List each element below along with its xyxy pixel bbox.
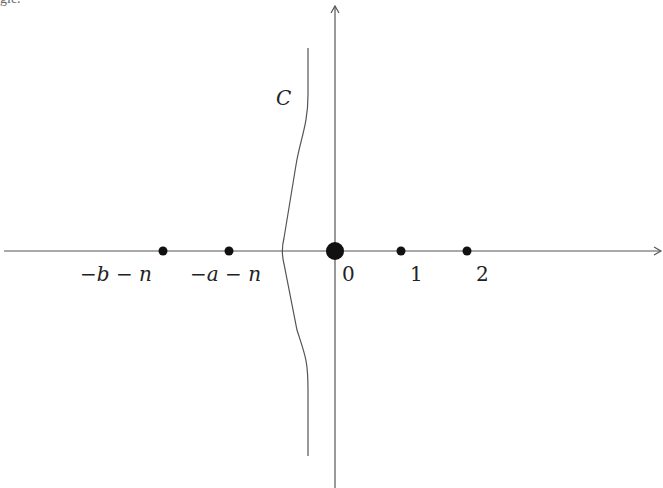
label-b-n: −b − n: [80, 262, 152, 286]
pole-1: [397, 247, 406, 256]
label-1: 1: [410, 262, 423, 286]
contour-label: C: [276, 86, 291, 110]
label-0: 0: [342, 262, 355, 286]
label-a-n: −a − n: [190, 262, 261, 286]
pole-b-n: [159, 247, 168, 256]
pole-2: [463, 247, 472, 256]
pole-0: [326, 242, 344, 260]
pole-a-n: [225, 247, 234, 256]
label-2: 2: [476, 262, 489, 286]
complex-plane-diagram: [0, 0, 663, 488]
